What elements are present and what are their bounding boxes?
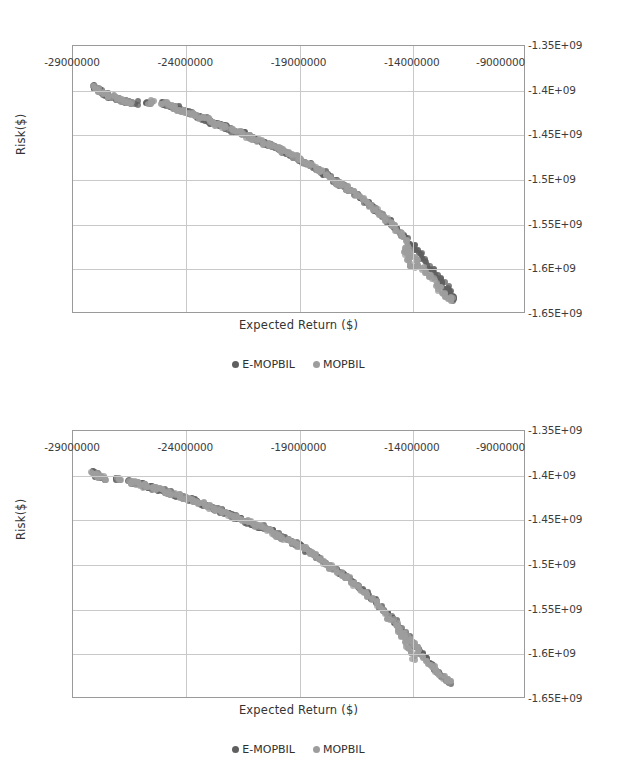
legend-label: E-MOPBIL — [242, 358, 295, 371]
scatter-figure-2: Risk($) Expected Return ($) E-MOPBIL MOP… — [0, 385, 639, 770]
x-axis-tick-label: -19000000 — [262, 56, 336, 68]
scatter-point — [438, 284, 444, 290]
legend-entry-e-mopbil-2[interactable]: E-MOPBIL — [232, 743, 295, 756]
scatter-layer-1 — [73, 46, 524, 312]
y-axis-tick-label: -1.6E+09 — [528, 262, 576, 274]
y-axis-title-2: Risk($) — [14, 498, 28, 540]
legend-marker-icon — [313, 361, 320, 368]
x-axis-tick-label: -19000000 — [262, 441, 336, 453]
x-axis-tick-label: -14000000 — [375, 56, 449, 68]
x-axis-tick-label: -9000000 — [465, 441, 525, 453]
y-axis-tick-label: -1.65E+09 — [528, 307, 582, 319]
y-gridline — [73, 610, 524, 611]
x-gridline — [186, 46, 187, 312]
x-gridline — [413, 431, 414, 697]
y-gridline — [73, 520, 524, 521]
y-axis-tick-label: -1.4E+09 — [528, 84, 576, 96]
legend-entry-mopbil-2[interactable]: MOPBIL — [313, 743, 365, 756]
scatter-layer-2 — [73, 431, 524, 697]
y-axis-tick-label: -1.35E+09 — [528, 424, 582, 436]
x-axis-tick-label: -29000000 — [35, 441, 109, 453]
x-axis-tick-label: -9000000 — [465, 56, 525, 68]
y-axis-tick-label: -1.45E+09 — [528, 128, 582, 140]
y-gridline — [73, 180, 524, 181]
y-axis-title-1: Risk($) — [14, 113, 28, 155]
x-gridline — [300, 46, 301, 312]
x-axis-tick-label: -24000000 — [148, 56, 222, 68]
plot-area-2 — [72, 430, 525, 698]
y-gridline — [73, 565, 524, 566]
x-axis-tick-label: -24000000 — [148, 441, 222, 453]
legend-marker-icon — [232, 746, 239, 753]
x-axis-title-2: Expected Return ($) — [72, 703, 525, 717]
y-axis-tick-label: -1.65E+09 — [528, 692, 582, 704]
x-gridline — [300, 431, 301, 697]
y-axis-tick-label: -1.6E+09 — [528, 647, 576, 659]
x-axis-tick-label: -14000000 — [375, 441, 449, 453]
y-gridline — [73, 135, 524, 136]
scatter-point — [444, 678, 450, 684]
legend-1: E-MOPBIL MOPBIL — [72, 358, 525, 371]
scatter-point — [128, 101, 134, 107]
scatter-point — [135, 102, 141, 108]
legend-entry-mopbil-1[interactable]: MOPBIL — [313, 358, 365, 371]
legend-label: MOPBIL — [323, 743, 365, 756]
scatter-point — [450, 295, 456, 301]
y-axis-tick-label: -1.35E+09 — [528, 39, 582, 51]
y-axis-tick-label: -1.4E+09 — [528, 469, 576, 481]
legend-label: MOPBIL — [323, 358, 365, 371]
legend-label: E-MOPBIL — [242, 743, 295, 756]
y-gridline — [73, 654, 524, 655]
y-gridline — [73, 91, 524, 92]
x-gridline — [186, 431, 187, 697]
y-gridline — [73, 476, 524, 477]
y-axis-tick-label: -1.45E+09 — [528, 513, 582, 525]
plot-area-1 — [72, 45, 525, 313]
y-gridline — [73, 225, 524, 226]
legend-marker-icon — [313, 746, 320, 753]
y-axis-tick-label: -1.5E+09 — [528, 173, 576, 185]
legend-entry-e-mopbil-1[interactable]: E-MOPBIL — [232, 358, 295, 371]
x-axis-title-1: Expected Return ($) — [72, 318, 525, 332]
legend-2: E-MOPBIL MOPBIL — [72, 743, 525, 756]
legend-marker-icon — [232, 361, 239, 368]
y-gridline — [73, 269, 524, 270]
y-axis-tick-label: -1.55E+09 — [528, 603, 582, 615]
y-axis-tick-label: -1.55E+09 — [528, 218, 582, 230]
x-axis-tick-label: -29000000 — [35, 56, 109, 68]
x-gridline — [413, 46, 414, 312]
y-axis-tick-label: -1.5E+09 — [528, 558, 576, 570]
scatter-figure-1: Risk($) Expected Return ($) E-MOPBIL MOP… — [0, 0, 639, 385]
scatter-point — [149, 99, 155, 105]
